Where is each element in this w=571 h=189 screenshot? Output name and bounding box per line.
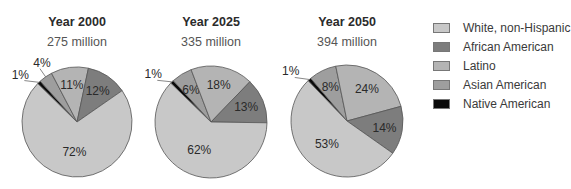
slice-label: 18% bbox=[207, 78, 231, 92]
swatch-icon bbox=[433, 99, 450, 109]
slice-label: 8% bbox=[322, 80, 340, 94]
pie-graphic: 1%8%24%14%53% bbox=[277, 0, 417, 189]
slice-label: 12% bbox=[86, 84, 110, 98]
swatch-icon bbox=[433, 23, 450, 33]
pie-chart-2025: Year 2025 335 million 1%6%18%13%62% bbox=[141, 0, 281, 189]
legend-item-native-american: Native American bbox=[433, 94, 570, 113]
swatch-icon bbox=[433, 80, 450, 90]
pie-chart-2000: Year 2000 275 million 1%4%11%12%72% bbox=[7, 0, 147, 189]
slice-label: 62% bbox=[187, 143, 211, 157]
slice-label: 13% bbox=[234, 100, 258, 114]
slice-label: 4% bbox=[33, 56, 51, 70]
legend-label: Native American bbox=[463, 97, 550, 111]
legend-label: White, non-Hispanic bbox=[463, 21, 570, 35]
slice-label: 24% bbox=[355, 82, 379, 96]
pie-graphic: 1%6%18%13%62% bbox=[141, 0, 281, 189]
swatch-icon bbox=[433, 61, 450, 71]
legend-label: African American bbox=[463, 40, 554, 54]
legend: White, non-Hispanic African American Lat… bbox=[433, 18, 570, 113]
legend-item-african-american: African American bbox=[433, 37, 570, 56]
pie-graphic: 1%4%11%12%72% bbox=[7, 0, 147, 189]
legend-label: Asian American bbox=[463, 78, 546, 92]
slice-label: 53% bbox=[315, 137, 339, 151]
pie-chart-2050: Year 2050 394 million 1%8%24%14%53% bbox=[277, 0, 417, 189]
legend-label: Latino bbox=[463, 59, 496, 73]
legend-item-white: White, non-Hispanic bbox=[433, 18, 570, 37]
slice-label: 1% bbox=[282, 64, 300, 78]
swatch-icon bbox=[433, 42, 450, 52]
slice-label: 72% bbox=[62, 145, 86, 159]
legend-item-latino: Latino bbox=[433, 56, 570, 75]
slice-label: 1% bbox=[12, 68, 30, 82]
slice-label: 1% bbox=[145, 67, 163, 81]
legend-item-asian-american: Asian American bbox=[433, 75, 570, 94]
slice-label: 14% bbox=[372, 121, 396, 135]
slice-label: 11% bbox=[60, 78, 83, 92]
